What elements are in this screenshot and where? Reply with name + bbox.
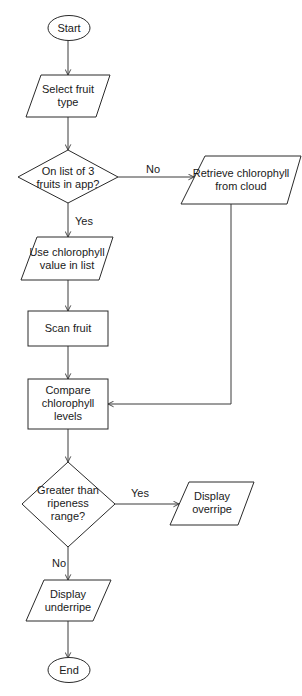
- label-no-1: No: [146, 163, 160, 175]
- greater-line1: Greater than: [37, 484, 99, 496]
- node-use-chlorophyll: Use chlorophyll value in list: [21, 237, 113, 280]
- underripe-line2: underripe: [45, 601, 91, 613]
- select-fruit-line2: type: [58, 96, 79, 108]
- end-label: End: [59, 664, 79, 676]
- node-display-underripe: Display underripe: [26, 580, 111, 621]
- label-no-2: No: [52, 557, 66, 569]
- greater-line3: range?: [51, 510, 85, 522]
- node-display-overripe: Display overripe: [170, 482, 254, 525]
- node-greater-decision: Greater than ripeness range?: [22, 462, 115, 547]
- overripe-line2: overripe: [192, 503, 232, 515]
- node-retrieve-chlorophyll: Retrieve chlorophyll from cloud: [181, 156, 301, 204]
- compare-line1: Compare: [45, 384, 90, 396]
- start-label: Start: [57, 22, 80, 34]
- retrieve-line1: Retrieve chlorophyll: [193, 167, 290, 179]
- label-yes-2: Yes: [131, 487, 149, 499]
- node-select-fruit: Select fruit type: [26, 75, 110, 117]
- greater-line2: ripeness: [47, 497, 89, 509]
- use-value-line2: value in list: [40, 259, 94, 271]
- label-yes-1: Yes: [75, 215, 93, 227]
- node-compare-chlorophyll: Compare chlorophyll levels: [28, 379, 108, 429]
- node-scan-fruit: Scan fruit: [28, 311, 108, 346]
- underripe-line1: Display: [50, 588, 87, 600]
- on-list-line1: On list of 3: [42, 165, 95, 177]
- node-on-list-decision: On list of 3 fruits in app?: [18, 150, 118, 203]
- flowchart: No Yes Yes No Start Select fruit type On…: [0, 0, 302, 696]
- select-fruit-line1: Select fruit: [42, 83, 94, 95]
- retrieve-line2: from cloud: [215, 180, 266, 192]
- scan-label: Scan fruit: [45, 322, 91, 334]
- edge-retrieve-to-compare: [108, 204, 231, 404]
- compare-line3: levels: [54, 410, 83, 422]
- compare-line2: chlorophyll: [42, 397, 95, 409]
- node-start: Start: [48, 16, 90, 41]
- overripe-line1: Display: [194, 490, 231, 502]
- use-value-line1: Use chlorophyll: [29, 246, 104, 258]
- node-end: End: [48, 658, 90, 683]
- on-list-line2: fruits in app?: [37, 178, 100, 190]
